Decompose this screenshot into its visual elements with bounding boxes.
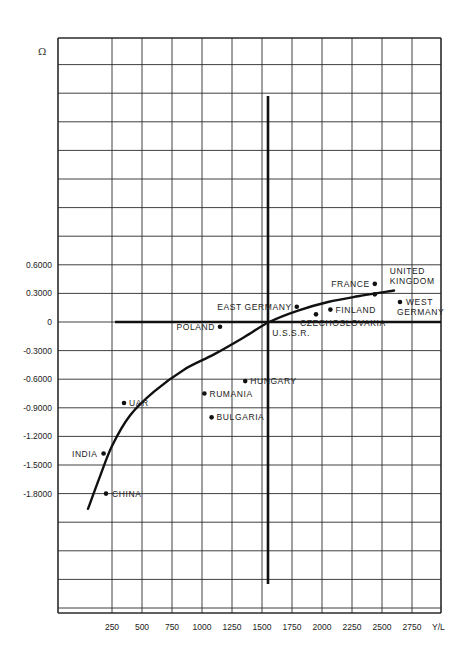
x-tick-label: 1250 bbox=[223, 622, 242, 632]
point-india bbox=[101, 451, 106, 456]
x-tick-label: 1000 bbox=[193, 622, 212, 632]
x-tick-label: 1500 bbox=[253, 622, 272, 632]
point-finland bbox=[328, 307, 333, 312]
y-tick-label: -0.3000 bbox=[23, 346, 52, 356]
point-china bbox=[104, 491, 109, 496]
y-axis-ticks: 0.60000.30000-0.3000-0.6000-0.9000-1.200… bbox=[23, 260, 52, 499]
data-points: CHINAINDIAUARRUMANIABULGARIAHUNGARYPOLAN… bbox=[72, 266, 444, 498]
y-tick-label: -1.5000 bbox=[23, 460, 52, 470]
x-tick-label: 1750 bbox=[283, 622, 302, 632]
label-czechoslovakia: CZECHOSLOVAKIA bbox=[300, 318, 386, 328]
x-tick-label: 2000 bbox=[313, 622, 332, 632]
x-tick-label: 750 bbox=[165, 622, 179, 632]
label-hungary: HUNGARY bbox=[250, 376, 297, 386]
y-tick-label: -1.2000 bbox=[23, 431, 52, 441]
y-tick-label: -0.6000 bbox=[23, 374, 52, 384]
label-east-germany: EAST GERMANY bbox=[217, 302, 292, 312]
label-india: INDIA bbox=[72, 449, 98, 459]
x-tick-label: 250 bbox=[105, 622, 119, 632]
point-hungary bbox=[243, 379, 248, 384]
y-tick-label: 0 bbox=[47, 317, 52, 327]
y-tick-label: -1.8000 bbox=[23, 489, 52, 499]
x-tick-label: 500 bbox=[135, 622, 149, 632]
point-rumania bbox=[202, 391, 207, 396]
label-poland: POLAND bbox=[176, 322, 215, 332]
label-finland: FINLAND bbox=[335, 305, 376, 315]
label-rumania: RUMANIA bbox=[209, 389, 252, 399]
x-tick-label: 2750 bbox=[403, 622, 422, 632]
x-axis-ticks: 2505007501000125015001750200022502500275… bbox=[105, 622, 422, 632]
reference-lines bbox=[115, 96, 441, 584]
x-tick-label: 2250 bbox=[343, 622, 362, 632]
label-france: FRANCE bbox=[331, 279, 370, 289]
y-tick-label: 0.6000 bbox=[26, 260, 52, 270]
label-uar: UAR bbox=[129, 398, 149, 408]
x-tick-label: 2500 bbox=[373, 622, 392, 632]
x-axis-label: Y/L bbox=[432, 622, 445, 632]
point-czechoslovakia bbox=[314, 312, 319, 317]
point-east-germany bbox=[295, 304, 300, 309]
y-tick-label: 0.3000 bbox=[26, 288, 52, 298]
chart: CHINAINDIAUARRUMANIABULGARIAHUNGARYPOLAN… bbox=[0, 0, 464, 656]
point-uar bbox=[122, 401, 127, 406]
label-united-kingdom: UNITEDKINGDOM bbox=[390, 266, 435, 286]
point-west-germany bbox=[398, 300, 403, 305]
point-france bbox=[373, 282, 378, 287]
y-tick-label: -0.9000 bbox=[23, 403, 52, 413]
label-china: CHINA bbox=[112, 489, 141, 499]
point-united-kingdom bbox=[373, 292, 378, 297]
label-west-germany: WESTGERMANY bbox=[397, 297, 444, 317]
point-poland bbox=[218, 324, 223, 329]
y-axis-label: Ω bbox=[38, 46, 46, 57]
label-u-s-s-r: U.S.S.R. bbox=[272, 328, 310, 338]
label-bulgaria: BULGARIA bbox=[217, 412, 265, 422]
point-bulgaria bbox=[209, 415, 214, 420]
